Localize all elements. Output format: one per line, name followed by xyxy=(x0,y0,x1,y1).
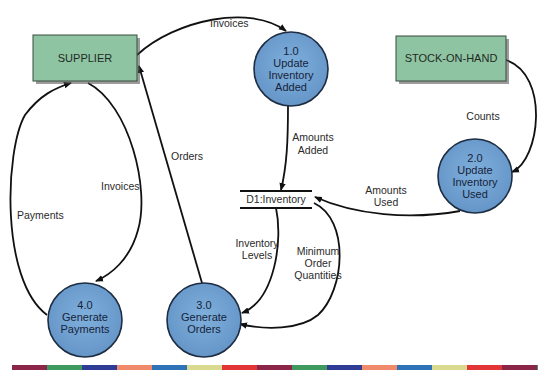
color-bar-segment xyxy=(397,365,432,370)
color-bar-segment xyxy=(187,365,222,370)
entity-stock-on-hand: STOCK-ON-HAND xyxy=(396,36,509,84)
color-bar-segment xyxy=(222,365,257,370)
label-amounts-used-1: Amounts xyxy=(365,184,406,196)
process-label-line: Added xyxy=(275,81,307,93)
color-bar-segment xyxy=(257,365,292,370)
data-flow-diagram: Invoices Counts Amounts Added Amounts Us… xyxy=(0,0,550,376)
process-label-line: Generate xyxy=(181,311,227,323)
color-bar-segment xyxy=(117,365,152,370)
process-number: 4.0 xyxy=(77,299,92,311)
label-invoices-left: Invoices xyxy=(101,180,140,192)
process-1: 1.0 Update Inventory Added xyxy=(254,32,328,106)
flow-p3-to-supplier-orders xyxy=(139,66,202,283)
label-min-order-3: Quantities xyxy=(294,269,341,281)
process-label-line: Inventory xyxy=(452,176,498,188)
process-number: 3.0 xyxy=(196,299,211,311)
process-label-line: Update xyxy=(457,164,492,176)
label-min-order-1: Minimum xyxy=(297,245,340,257)
process-4: 4.0 Generate Payments xyxy=(48,283,122,357)
process-label-line: Generate xyxy=(62,311,108,323)
label-amounts-added-1: Amounts xyxy=(292,131,333,143)
process-3: 3.0 Generate Orders xyxy=(167,283,241,357)
color-bar-segment xyxy=(12,365,47,370)
label-amounts-added-2: Added xyxy=(298,144,329,156)
color-bar-segment xyxy=(47,365,82,370)
label-orders: Orders xyxy=(171,150,203,162)
color-bar-segment xyxy=(327,365,362,370)
label-counts: Counts xyxy=(466,110,499,122)
decorative-color-bar xyxy=(12,365,538,370)
entity-supplier: SUPPLIER xyxy=(33,35,140,84)
process-number: 2.0 xyxy=(467,152,482,164)
color-bar-segment xyxy=(292,365,327,370)
process-2: 2.0 Update Inventory Used xyxy=(438,139,512,213)
entity-label: STOCK-ON-HAND xyxy=(405,52,498,64)
color-bar-segment xyxy=(502,365,537,370)
label-payments: Payments xyxy=(17,209,64,221)
label-inventory-levels-2: Levels xyxy=(242,249,272,261)
process-number: 1.0 xyxy=(283,45,298,57)
process-label-line: Used xyxy=(462,188,488,200)
label-min-order-2: Order xyxy=(305,257,332,269)
color-bar-segment xyxy=(152,365,187,370)
color-bar-segment xyxy=(467,365,502,370)
label-invoices-top: Invoices xyxy=(210,17,249,29)
process-label-line: Orders xyxy=(187,323,221,335)
flow-p1-to-d1-amounts-added xyxy=(281,106,288,190)
flow-stock-to-p2-counts xyxy=(506,60,536,172)
color-bar-segment xyxy=(362,365,397,370)
color-bar-segment xyxy=(82,365,117,370)
label-inventory-levels-1: Inventory xyxy=(235,237,279,249)
flow-p4-to-supplier-payments xyxy=(10,83,71,315)
process-label-line: Inventory xyxy=(268,69,314,81)
process-label-line: Update xyxy=(273,57,308,69)
label-amounts-used-2: Used xyxy=(374,196,399,208)
color-bar-segment xyxy=(432,365,467,370)
data-store-label: D1:Inventory xyxy=(246,193,306,205)
process-label-line: Payments xyxy=(61,323,110,335)
entity-label: SUPPLIER xyxy=(58,52,112,64)
data-store-d1: D1:Inventory xyxy=(240,191,312,208)
color-bar-segment xyxy=(537,365,538,370)
